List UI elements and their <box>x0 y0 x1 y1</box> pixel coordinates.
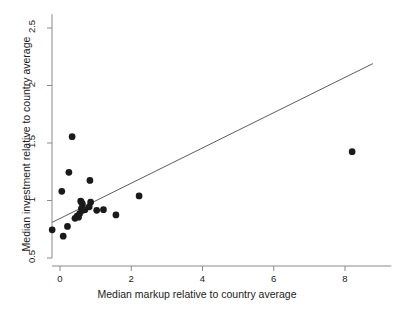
regression-line <box>52 64 373 223</box>
scatter-point <box>86 203 93 210</box>
scatter-plot-figure: 02468 0.511.522.5 Median markup relative… <box>0 0 394 313</box>
fit-line <box>52 64 373 223</box>
x-tick-label: 8 <box>330 273 360 284</box>
scatter-point <box>49 226 56 233</box>
scatter-point <box>87 177 94 184</box>
x-tick-label: 0 <box>45 273 75 284</box>
x-tick-label: 6 <box>259 273 289 284</box>
scatter-point <box>349 148 356 155</box>
scatter-point <box>100 206 107 213</box>
x-tick-label: 4 <box>188 273 218 284</box>
scatter-point <box>136 193 143 200</box>
scatter-point <box>93 207 100 214</box>
axes <box>52 14 391 266</box>
scatter-point <box>66 169 73 176</box>
y-axis-title: Median investment relative to country av… <box>20 14 32 274</box>
scatter-point <box>113 212 120 219</box>
scatter-point <box>69 133 76 140</box>
scatter-point <box>64 223 71 230</box>
plot-canvas <box>0 0 394 313</box>
scatter-point <box>58 188 65 195</box>
x-axis-title: Median markup relative to country averag… <box>0 288 394 300</box>
scatter-point <box>60 233 67 240</box>
data-points <box>49 133 356 239</box>
axis-ticks <box>47 28 345 271</box>
x-tick-label: 2 <box>116 273 146 284</box>
